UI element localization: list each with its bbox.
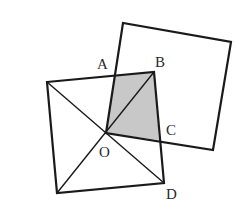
label-b: B (155, 54, 165, 70)
label-d: D (166, 186, 177, 202)
label-o: O (99, 144, 110, 160)
label-c: C (166, 122, 176, 138)
geometry-diagram: A B C O D (0, 0, 236, 204)
label-a: A (97, 56, 108, 72)
